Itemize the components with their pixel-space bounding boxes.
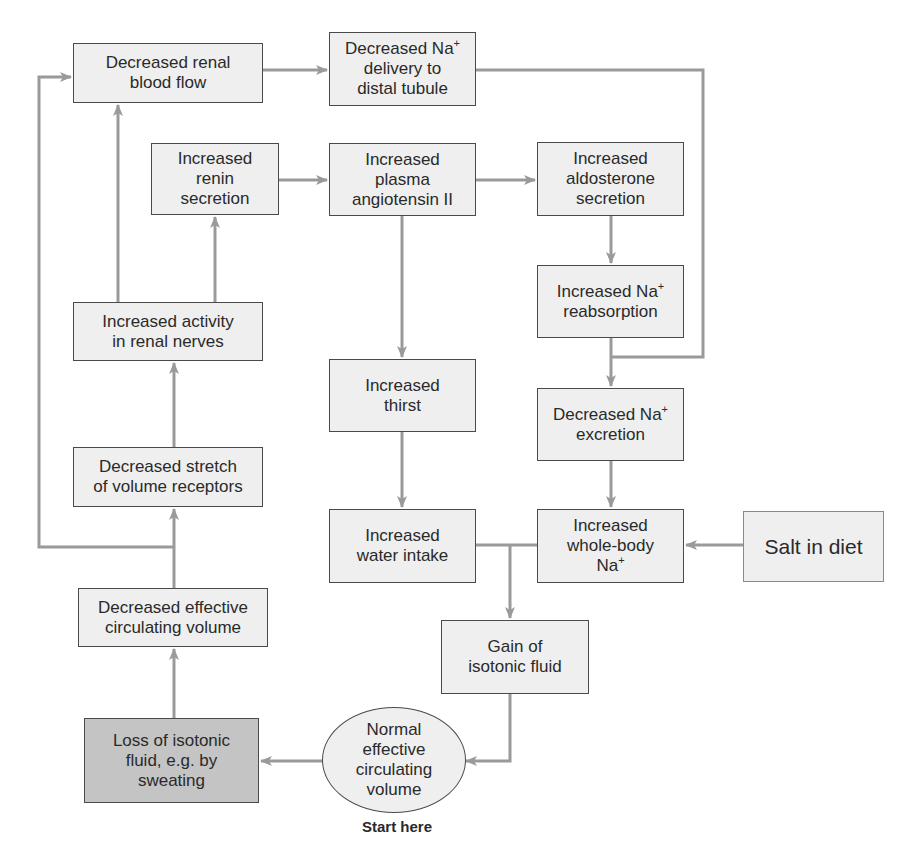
node-text: effective <box>362 740 425 760</box>
node-text: Na+ <box>596 556 624 576</box>
arrow-gain-to-normal-volume <box>466 694 510 761</box>
node-increased-water-intake: Increased water intake <box>329 509 476 583</box>
node-text: excretion <box>576 425 645 445</box>
node-text: volume <box>367 780 422 800</box>
node-text: Increased <box>178 149 253 169</box>
node-salt-in-diet: Salt in diet <box>743 511 884 582</box>
node-increased-angiotensin: Increased plasma angiotensin II <box>329 143 476 216</box>
node-loss-isotonic-fluid: Loss of isotonic fluid, e.g. by sweating <box>84 718 259 803</box>
node-text: circulating <box>356 760 433 780</box>
node-gain-isotonic-fluid: Gain of isotonic fluid <box>441 620 589 694</box>
start-here-label: Start here <box>322 818 472 835</box>
node-text: in renal nerves <box>112 332 224 352</box>
node-increased-whole-body-na: Increased whole-body Na+ <box>537 509 684 583</box>
node-text: water intake <box>357 546 449 566</box>
node-text: Increased <box>365 376 440 396</box>
node-increased-renin: Increased renin secretion <box>151 143 279 215</box>
node-decreased-effective-volume: Decreased effective circulating volume <box>78 588 268 647</box>
node-increased-na-reabsorption: Increased Na+ reabsorption <box>537 265 684 338</box>
node-increased-thirst: Increased thirst <box>329 359 476 432</box>
node-text: Increased <box>365 526 440 546</box>
node-text: Gain of <box>488 637 543 657</box>
node-text: blood flow <box>130 73 207 93</box>
node-decreased-na-delivery: Decreased Na+ delivery to distal tubule <box>329 32 476 106</box>
node-text: delivery to <box>364 59 441 79</box>
node-text: Increased activity <box>102 312 233 332</box>
node-text: sweating <box>138 771 205 791</box>
node-text: circulating volume <box>105 618 241 638</box>
node-text: Salt in diet <box>764 537 862 557</box>
node-text: Increased <box>365 150 440 170</box>
node-normal-effective-volume: Normal effective circulating volume <box>322 707 466 813</box>
node-decreased-na-excretion: Decreased Na+ excretion <box>537 388 684 461</box>
node-text: Decreased effective <box>98 598 248 618</box>
node-text: Increased Na+ <box>557 282 665 302</box>
node-text: thirst <box>384 396 421 416</box>
node-text: Decreased stretch <box>99 457 237 477</box>
node-text: secretion <box>181 189 250 209</box>
node-text: aldosterone <box>566 169 655 189</box>
node-increased-renal-nerves: Increased activity in renal nerves <box>73 302 263 361</box>
node-decreased-renal-blood-flow: Decreased renal blood flow <box>73 43 263 103</box>
node-text: of volume receptors <box>93 477 242 497</box>
node-text: Normal <box>367 720 422 740</box>
node-text: reabsorption <box>563 302 658 322</box>
node-text: distal tubule <box>357 79 448 99</box>
node-text: angiotensin II <box>352 190 453 210</box>
node-text: Loss of isotonic <box>113 731 230 751</box>
node-text: whole-body <box>567 536 654 556</box>
node-decreased-stretch: Decreased stretch of volume receptors <box>73 447 263 507</box>
node-increased-aldosterone: Increased aldosterone secretion <box>537 142 684 216</box>
node-text: fluid, e.g. by <box>126 751 218 771</box>
node-text: isotonic fluid <box>468 657 562 677</box>
node-text: secretion <box>576 189 645 209</box>
node-text: Decreased Na+ <box>553 405 668 425</box>
node-text: Increased <box>573 149 648 169</box>
node-text: Increased <box>573 516 648 536</box>
node-text: plasma <box>375 170 430 190</box>
node-text: renin <box>196 169 234 189</box>
node-text: Decreased renal <box>106 53 231 73</box>
node-text: Decreased Na+ <box>345 39 460 59</box>
